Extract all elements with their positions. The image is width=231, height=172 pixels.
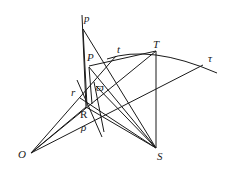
label-rho: ρ: [80, 121, 86, 133]
line-P-T: [89, 51, 156, 66]
line-R-S: [86, 107, 156, 148]
label-T: T: [153, 38, 160, 50]
label-r: r: [71, 86, 76, 98]
label-tau: τ: [208, 52, 213, 64]
line-O-R: [31, 107, 86, 153]
line-r-S: [80, 98, 156, 148]
line-O-tau: [31, 65, 203, 153]
label-R: R: [80, 108, 88, 120]
label-t: t: [117, 43, 121, 55]
line-O-t: [31, 56, 116, 153]
line-omega-S: [96, 86, 156, 148]
label-p: p: [83, 12, 90, 24]
geometry-diagram: p P t T τ ϖ r R ρ O S: [0, 0, 231, 172]
orbit-arc: [107, 54, 217, 73]
label-O: O: [18, 148, 26, 160]
diagram-canvas: p P t T τ ϖ r R ρ O S: [0, 0, 231, 172]
label-omega: ϖ: [96, 81, 104, 93]
label-P: P: [86, 51, 94, 63]
label-S: S: [157, 150, 163, 162]
